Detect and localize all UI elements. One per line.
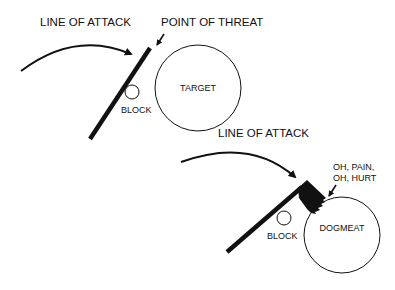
line-of-attack-arrow [21, 45, 131, 71]
point-of-threat-label: POINT OF THREAT [161, 16, 263, 28]
line-of-attack-label: LINE OF ATTACK [40, 16, 131, 28]
pain-arrow [329, 185, 336, 196]
block-label: BLOCK [121, 105, 152, 115]
pain-label-line2: OH, HURT [333, 173, 377, 183]
blocking-arm [90, 48, 150, 139]
blocking-diagram: LINE OF ATTACK POINT OF THREAT BLOCK TAR… [0, 0, 395, 290]
line-of-attack-label-2: LINE OF ATTACK [218, 127, 309, 139]
block-circle-2 [277, 211, 291, 225]
dogmeat-circle [304, 197, 380, 273]
line-of-attack-arrow-2 [181, 152, 295, 177]
block-circle [125, 85, 139, 99]
crushed-block-icon [298, 180, 326, 214]
dogmeat-label: DOGMEAT [320, 223, 365, 233]
block-label-2: BLOCK [267, 231, 298, 241]
point-of-threat-arrow [157, 34, 164, 45]
target-label: TARGET [180, 83, 216, 93]
diagram-after: LINE OF ATTACK OH, PAIN, OH, HURT BLOCK … [181, 127, 380, 273]
pain-label-line1: OH, PAIN, [333, 162, 374, 172]
diagram-before: LINE OF ATTACK POINT OF THREAT BLOCK TAR… [21, 16, 263, 139]
